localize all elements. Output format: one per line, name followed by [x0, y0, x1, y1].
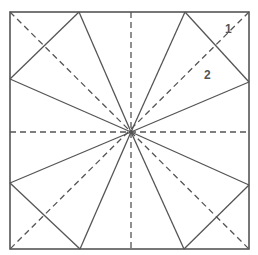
crease-pattern-diagram: 1 2: [0, 0, 258, 255]
solid-fold-line: [131, 132, 249, 185]
solid-fold-line: [10, 132, 131, 183]
solid-fold-line: [131, 132, 184, 249]
solid-fold-line: [131, 12, 185, 132]
solid-fold-line: [79, 12, 131, 132]
solid-fold-line: [131, 82, 249, 132]
fold-label-1: 1: [225, 22, 232, 36]
solid-fold-line: [10, 79, 131, 132]
solid-fold-line: [185, 12, 249, 82]
solid-fold-line: [80, 132, 131, 249]
diagram-canvas: [0, 0, 258, 255]
fold-label-2: 2: [204, 68, 211, 82]
center-point: [129, 130, 133, 134]
valley-fold-lines: [10, 12, 249, 249]
